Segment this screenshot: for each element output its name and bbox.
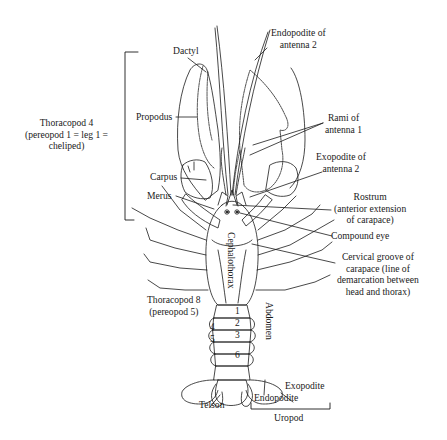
left-leg-4 xyxy=(146,228,206,255)
left-leg-5 xyxy=(144,254,207,270)
label-merus: Merus xyxy=(147,190,172,202)
label-line: carapace (line of xyxy=(337,263,419,275)
left-leg-3 xyxy=(132,208,206,240)
label-rostrum: Rostrum (anterior extension of carapace) xyxy=(334,191,406,226)
leader-cervical-groove xyxy=(252,244,335,263)
segment-number-2: 2 xyxy=(235,318,240,328)
label-line: antenna 1 xyxy=(325,124,362,136)
antenna-2-left xyxy=(215,28,228,195)
right-uropod-endopodite xyxy=(241,384,252,406)
label-line: Rami of xyxy=(325,112,362,124)
segment-number-4: 4 xyxy=(210,322,215,332)
label-cephalothorax: Cephalothorax xyxy=(226,232,237,288)
label-line: (anterior extension xyxy=(334,203,406,215)
leader-rostrum xyxy=(233,205,331,210)
label-dactyl: Dactyl xyxy=(173,45,199,57)
abdomen-seg-6 xyxy=(214,366,250,380)
label-rami-antenna-1: Rami of antenna 1 xyxy=(325,112,362,135)
label-endopodite: Endopodite xyxy=(254,392,298,404)
crayfish-diagram: Thoracopod 4 (pereopod 1 = leg 1 = cheli… xyxy=(0,0,447,440)
label-line: antenna 2 xyxy=(316,163,366,175)
label-thoracopod-8: Thoracopod 8 (pereopod 5) xyxy=(147,294,201,317)
label-abdomen: Abdomen xyxy=(264,302,275,340)
leader-carpus xyxy=(181,178,206,180)
label-line: head and thorax) xyxy=(337,286,419,298)
label-line: demarcation between xyxy=(337,274,419,286)
label-line: antenna 2 xyxy=(271,39,326,51)
label-line: Thoracopod 8 xyxy=(147,294,201,306)
label-line: Exopodite of xyxy=(316,151,366,163)
right-claw-fixed-finger xyxy=(290,68,305,188)
segment-number-5: 5 xyxy=(210,334,215,344)
label-thoracopod-4: Thoracopod 4 (pereopod 1 = leg 1 = cheli… xyxy=(25,117,108,152)
right-claw-inner xyxy=(239,70,287,192)
abdomen-seg-4 xyxy=(214,342,250,354)
label-carpus: Carpus xyxy=(150,171,177,183)
label-line: cheliped) xyxy=(25,140,108,152)
label-line: of carapace) xyxy=(334,214,406,226)
segment-number-1: 1 xyxy=(235,306,240,316)
label-propodus: Propodus xyxy=(136,111,172,123)
label-line: Rostrum xyxy=(334,191,406,203)
cheliped-bracket xyxy=(125,52,138,220)
label-line: Endopodite of xyxy=(271,27,326,39)
abdomen-seg-3 xyxy=(213,330,251,342)
segment-number-6: 6 xyxy=(235,350,240,360)
leader-compound-eye xyxy=(240,213,332,236)
label-cervical-groove: Cervical groove of carapace (line of dem… xyxy=(337,251,419,297)
label-compound-eye: Compound eye xyxy=(331,230,389,242)
left-merus xyxy=(182,194,220,228)
label-uropod: Uropod xyxy=(274,412,303,424)
label-exopodite: Exopodite xyxy=(285,380,324,392)
segment-number-3: 3 xyxy=(235,330,240,340)
label-line: (pereopod 5) xyxy=(147,306,201,318)
left-leg-thoracopod-8 xyxy=(148,280,208,290)
label-line: Thoracopod 4 xyxy=(25,117,108,129)
label-exopodite-antenna-2: Exopodite of antenna 2 xyxy=(316,151,366,174)
abdomen-seg-5 xyxy=(215,354,249,366)
label-line: Cervical groove of xyxy=(337,251,419,263)
leader-rami-antenna1 xyxy=(250,123,323,155)
label-line: (pereopod 1 = leg 1 = xyxy=(25,129,108,141)
label-endopodite-antenna-2: Endopodite of antenna 2 xyxy=(271,27,326,50)
abdomen-seg-2 xyxy=(213,318,251,330)
label-telson: Telson xyxy=(199,399,224,411)
leader-exopodite-antenna2 xyxy=(250,172,322,197)
leader-endopodite-antenna2 xyxy=(255,48,267,60)
abdomen-seg-1 xyxy=(214,305,250,318)
